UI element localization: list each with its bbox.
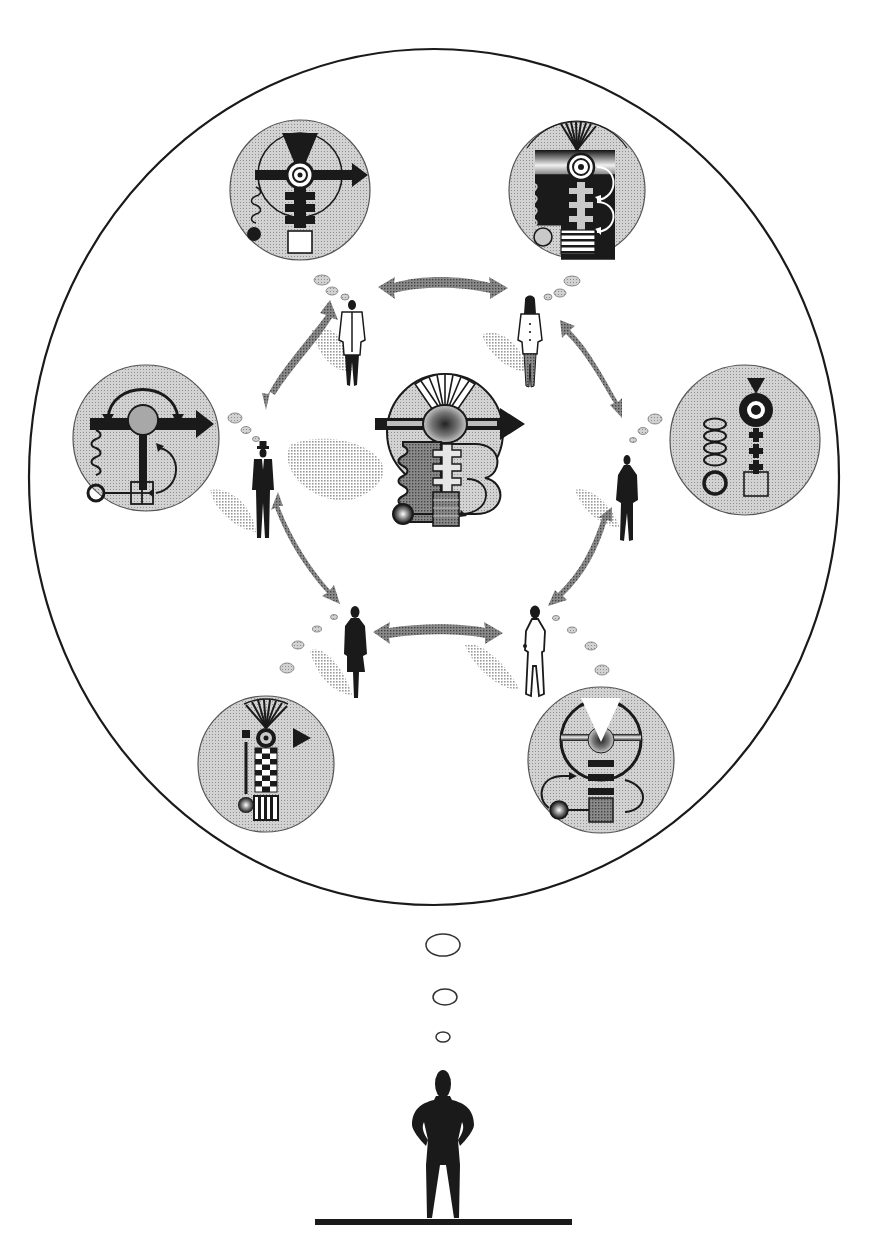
- checkerboard-column-icon: [255, 748, 277, 792]
- medallion-left: [73, 365, 219, 511]
- ground-line: [315, 1219, 572, 1225]
- crosses-icon: [749, 428, 763, 474]
- double-arrow-top: [378, 277, 508, 299]
- grid-block-icon: [433, 492, 459, 526]
- lever-top-square: [242, 730, 250, 738]
- thought-bubble-medium: [433, 989, 457, 1005]
- medallion-bottom-right: [528, 687, 674, 833]
- observer-thought-bubbles: [426, 934, 460, 1042]
- square-icon: [288, 231, 312, 253]
- person-woman-top-right: [518, 296, 542, 388]
- medallion-top-left: [230, 120, 370, 260]
- striped-base-icon: [254, 796, 278, 820]
- ball-icon: [238, 797, 254, 813]
- bars-icon: [588, 760, 614, 795]
- double-arrow-bottom: [373, 622, 503, 644]
- medallion-top-right: [509, 121, 645, 260]
- person-man-left: [252, 441, 274, 538]
- double-arrow-upper-right: [560, 320, 622, 418]
- illustration-canvas: [0, 0, 880, 1257]
- ball-icon: [550, 801, 568, 819]
- double-arrow-lower-right: [548, 507, 612, 606]
- ball-icon: [393, 504, 413, 524]
- thought-bubble-large: [426, 934, 460, 956]
- medallion-right: [670, 365, 820, 515]
- lever-rod: [245, 742, 248, 794]
- person-right: [616, 455, 638, 541]
- person-man-top-left: [339, 300, 365, 386]
- double-arrow-lower-left: [271, 492, 340, 604]
- dotted-block-icon: [589, 798, 613, 822]
- thought-bubble-small: [436, 1032, 450, 1042]
- eye-icon: [423, 405, 467, 443]
- striped-block-icon: [561, 230, 595, 254]
- person-bottom-right: [523, 606, 545, 697]
- medallion-bottom-left: [198, 696, 334, 832]
- observer-silhouette: [412, 1070, 474, 1218]
- ball-icon: [247, 227, 261, 241]
- center-machine: [375, 374, 525, 526]
